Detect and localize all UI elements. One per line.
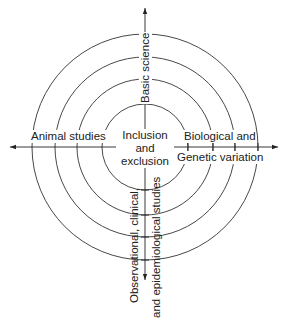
center-label: Inclusion and exclusion [116, 129, 174, 168]
center-line-1: Inclusion [116, 129, 174, 142]
left-label: Animal studies [31, 130, 106, 143]
center-line-3: exclusion [116, 155, 174, 168]
right-label-1: Biological and [184, 130, 256, 143]
top-label: Basic science [139, 32, 152, 104]
center-line-2: and [116, 142, 174, 155]
right-label-2: Genetic variation [177, 151, 263, 164]
bottom-label-2: and epidemiological studies [150, 177, 163, 318]
bottom-label-1: Observational, clinical, [128, 188, 141, 303]
